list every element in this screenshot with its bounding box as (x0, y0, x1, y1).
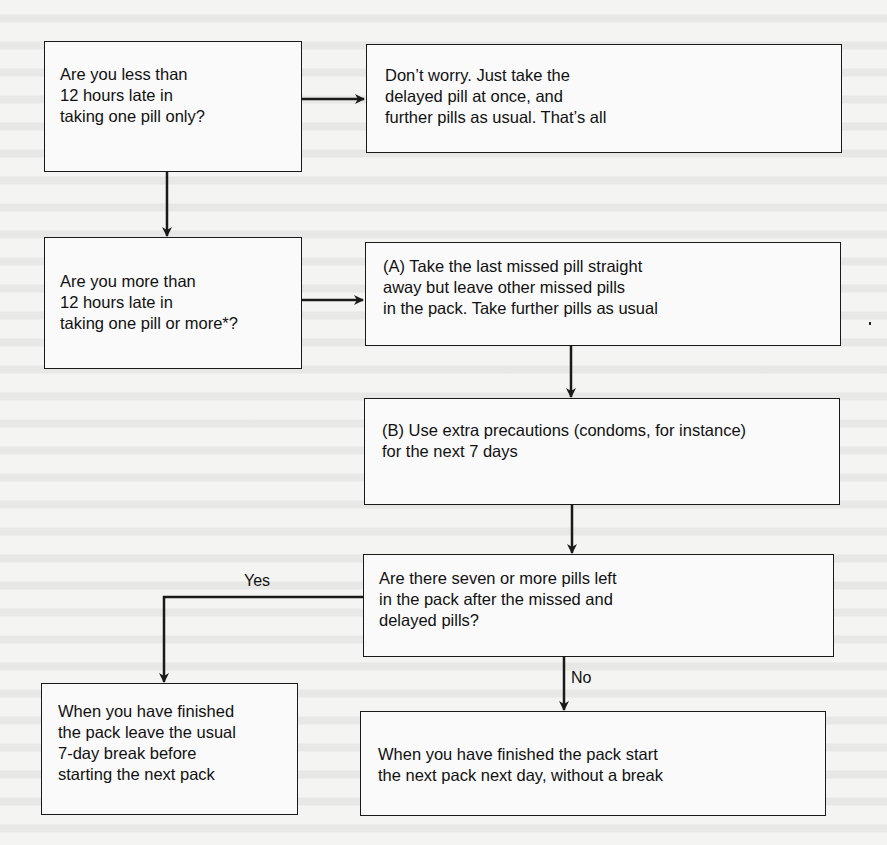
node-text-line: for the next 7 days (382, 441, 839, 462)
node-text-line: 12 hours late in (60, 85, 301, 106)
node-text-line: 7-day break before (58, 743, 297, 764)
node-text-line: Don’t worry. Just take the (385, 65, 841, 86)
outcome-dont-worry: Don’t worry. Just take the delayed pill … (366, 44, 842, 153)
node-text-line: taking one pill only? (60, 106, 301, 127)
node-text-line: delayed pill at once, and (385, 86, 841, 107)
step-b-extra-precautions: (B) Use extra precautions (condoms, for … (364, 398, 840, 505)
node-text-line: When you have finished the pack start (378, 744, 825, 765)
node-text-line: Are you more than (60, 271, 301, 292)
node-text-line: (A) Take the last missed pill straight (383, 256, 840, 277)
arrow-q3-to-yes-outcome (164, 597, 363, 682)
outcome-start-next-pack-no-break: When you have finished the pack start th… (360, 711, 826, 816)
edge-label-no: No (571, 669, 591, 687)
question-less-than-12-hours: Are you less than 12 hours late in takin… (44, 41, 302, 172)
question-more-than-12-hours: Are you more than 12 hours late in takin… (44, 237, 302, 369)
step-a-take-last-missed-pill: (A) Take the last missed pill straight a… (365, 242, 841, 346)
node-text-line: (B) Use extra precautions (condoms, for … (382, 420, 839, 441)
node-text-line: in the pack after the missed and (379, 589, 833, 610)
node-text-line: Are there seven or more pills left (379, 568, 833, 589)
node-text-line: 12 hours late in (60, 292, 301, 313)
node-text-line: starting the next pack (58, 764, 297, 785)
node-text-line: When you have finished (58, 701, 297, 722)
node-text-line: in the pack. Take further pills as usual (383, 298, 840, 319)
node-text-line: taking one pill or more*? (60, 313, 301, 334)
node-text-line: further pills as usual. That’s all (385, 107, 841, 128)
node-text-line: Are you less than (60, 64, 301, 85)
edge-label-yes: Yes (244, 572, 270, 590)
node-text-line: delayed pills? (379, 610, 833, 631)
node-text-line: away but leave other missed pills (383, 277, 840, 298)
node-text-line: the next pack next day, without a break (378, 765, 825, 786)
question-seven-or-more-pills-left: Are there seven or more pills left in th… (363, 554, 834, 657)
outcome-leave-usual-break: When you have finished the pack leave th… (41, 683, 298, 815)
stray-print-mark (869, 322, 871, 325)
node-text-line: the pack leave the usual (58, 722, 297, 743)
